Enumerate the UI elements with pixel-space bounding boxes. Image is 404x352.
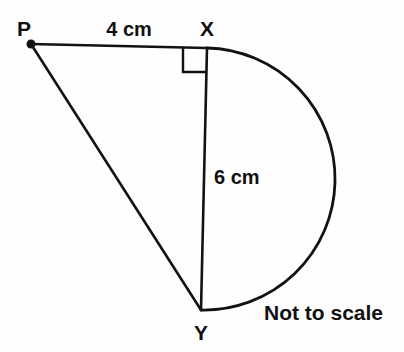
right-angle-marker-icon xyxy=(183,48,207,72)
not-to-scale-note: Not to scale xyxy=(264,301,383,324)
vertex-label-p: P xyxy=(17,17,31,40)
length-label-xy: 6 cm xyxy=(214,166,260,188)
segment-py xyxy=(31,44,201,310)
vertex-label-y: Y xyxy=(194,321,208,344)
vertex-dot-p xyxy=(27,40,36,49)
segment-px xyxy=(31,44,207,48)
segment-xy xyxy=(201,48,207,310)
figure-canvas: P X Y 4 cm 6 cm Not to scale xyxy=(0,0,404,352)
geometry-diagram: P X Y 4 cm 6 cm Not to scale xyxy=(0,0,404,352)
vertex-label-x: X xyxy=(200,17,214,40)
length-label-px: 4 cm xyxy=(106,18,152,40)
